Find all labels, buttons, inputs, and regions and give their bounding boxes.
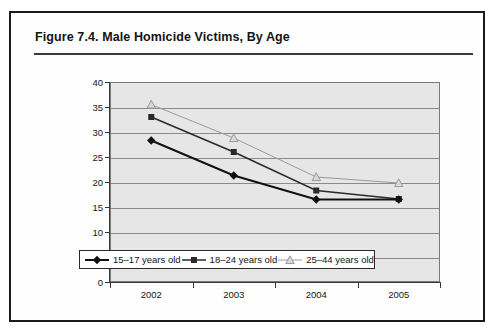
x-tick-mark: [193, 283, 194, 288]
y-tick-label: 0: [77, 277, 103, 288]
x-tick-mark: [440, 283, 441, 288]
y-tick-label: 20: [77, 177, 103, 188]
legend-key-triangle-marker-icon: [277, 254, 303, 266]
legend-key-diamond-marker-icon: [84, 254, 110, 266]
diamond-marker-icon: [312, 195, 320, 203]
chart-legend: 15–17 years old18–24 years old25–44 year…: [79, 250, 375, 269]
y-tick-label: 30: [77, 127, 103, 138]
diamond-marker-icon: [147, 136, 155, 144]
square-marker-icon: [191, 257, 197, 263]
y-tick-label: 15: [77, 202, 103, 213]
legend-item: 25–44 years old: [277, 254, 374, 266]
legend-label: 18–24 years old: [210, 254, 278, 265]
legend-label: 25–44 years old: [306, 254, 374, 265]
page-title: Figure 7.4. Male Homicide Victims, By Ag…: [35, 30, 290, 44]
x-tick-label: 2005: [388, 289, 409, 300]
diamond-marker-icon: [230, 171, 238, 179]
chart-area: 0510152025303540 2002200320042005: [33, 65, 465, 317]
y-tick-mark: [105, 232, 109, 233]
x-tick-label: 2003: [223, 289, 244, 300]
legend-key-square-marker-icon: [181, 254, 207, 266]
x-tick-label: 2004: [306, 289, 327, 300]
figure-frame: Figure 7.4. Male Homicide Victims, By Ag…: [9, 11, 485, 322]
title-divider: [34, 53, 473, 55]
square-marker-icon: [231, 149, 237, 155]
x-tick-mark: [110, 283, 111, 288]
y-tick-mark: [105, 207, 109, 208]
y-tick-mark: [105, 157, 109, 158]
series-group: [147, 100, 403, 186]
y-tick-label: 25: [77, 152, 103, 163]
y-tick-mark: [105, 107, 109, 108]
x-tick-label: 2002: [141, 289, 162, 300]
series-group: [147, 136, 403, 203]
y-tick-label: 10: [77, 227, 103, 238]
figure-page: Figure 7.4. Male Homicide Victims, By Ag…: [0, 0, 499, 333]
diamond-marker-icon: [93, 255, 101, 263]
square-marker-icon: [313, 188, 319, 194]
y-tick-mark: [105, 132, 109, 133]
triangle-marker-icon: [147, 100, 155, 108]
y-tick-label: 40: [77, 77, 103, 88]
triangle-marker-icon: [230, 134, 238, 142]
triangle-marker-icon: [312, 173, 320, 181]
square-marker-icon: [148, 114, 154, 120]
x-tick-mark: [358, 283, 359, 288]
legend-label: 15–17 years old: [113, 254, 181, 265]
series-line: [151, 141, 399, 200]
x-tick-mark: [275, 283, 276, 288]
y-tick-label: 35: [77, 102, 103, 113]
legend-item: 18–24 years old: [181, 254, 278, 266]
y-tick-mark: [105, 282, 109, 283]
y-tick-mark: [105, 82, 109, 83]
legend-item: 15–17 years old: [84, 254, 181, 266]
y-tick-mark: [105, 182, 109, 183]
